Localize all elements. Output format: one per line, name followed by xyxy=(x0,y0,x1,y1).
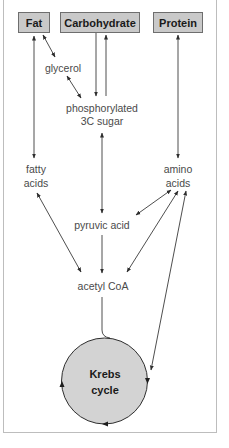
carbohydrate-label: Carbohydrate xyxy=(64,17,136,29)
krebs-label-line2: cycle xyxy=(91,382,119,398)
arrow-fatty-acetyl xyxy=(37,193,81,272)
glycerol-label: glycerol xyxy=(45,61,81,75)
amino-acids-label-line2: acids xyxy=(166,176,191,190)
fat-box: Fat xyxy=(18,12,50,33)
pyruvic-acid-label: pyruvic acid xyxy=(74,218,129,232)
phosphorylated-label-line1: phosphorylated xyxy=(66,101,138,115)
arrow-glycerol-phosphorylated xyxy=(67,76,81,98)
protein-box: Protein xyxy=(153,12,203,33)
protein-label: Protein xyxy=(159,17,197,29)
carbohydrate-box: Carbohydrate xyxy=(60,12,140,33)
fatty-acids-label-line1: fatty xyxy=(26,162,46,176)
arrow-amino-krebs xyxy=(151,191,186,370)
fat-label: Fat xyxy=(26,17,43,29)
acetyl-coa-label: acetyl CoA xyxy=(78,279,129,293)
krebs-label-line1: Krebs xyxy=(89,366,120,382)
arrow-fat-glycerol xyxy=(43,35,55,57)
amino-acids-label-line1: amino xyxy=(164,162,193,176)
phosphorylated-label-line2: 3C sugar xyxy=(81,114,124,128)
arrow-acetyl-krebs xyxy=(102,297,110,338)
fatty-acids-label-line2: acids xyxy=(24,176,49,190)
